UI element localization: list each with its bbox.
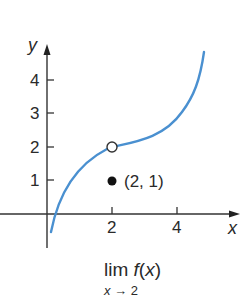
xtick-label-2: 2: [107, 219, 116, 236]
x-axis-arrow-icon: [229, 211, 240, 218]
x-axis-label: x: [228, 219, 237, 237]
caption-main: lim f(x): [104, 259, 161, 280]
caption-limit: lim f(x): [104, 259, 161, 281]
ytick-label-2: 2: [30, 139, 39, 156]
ytick-label-3: 3: [30, 105, 39, 122]
ytick-label-1: 1: [30, 172, 39, 189]
function-curve: [51, 52, 204, 232]
y-axis-arrow-icon: [44, 44, 51, 55]
y-axis-label: y: [28, 36, 37, 54]
point-annotation: (2, 1): [124, 173, 164, 190]
closed-point: [108, 177, 117, 186]
caption-subscript: x → 2: [104, 283, 138, 298]
open-point: [107, 142, 117, 152]
xtick-label-4: 4: [172, 219, 181, 236]
ytick-label-4: 4: [30, 72, 39, 89]
